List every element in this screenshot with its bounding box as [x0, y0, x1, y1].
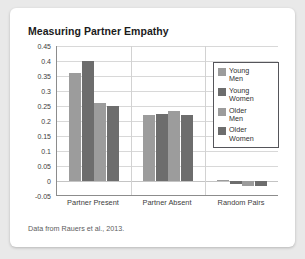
bar	[82, 61, 94, 181]
legend-label: OlderWomen	[229, 126, 254, 143]
legend-item: YoungMen	[218, 67, 274, 84]
legend-item: OlderWomen	[218, 126, 274, 143]
bar	[217, 180, 229, 182]
bar	[69, 73, 81, 181]
y-tick-label: 0.15	[37, 133, 51, 140]
y-tick-label: 0.2	[41, 118, 51, 125]
legend-swatch-icon	[218, 88, 226, 96]
y-tick-label: 0.05	[37, 163, 51, 170]
bar	[107, 106, 119, 181]
legend-label: YoungWomen	[229, 87, 254, 104]
legend-swatch-icon	[218, 68, 226, 76]
bar	[168, 111, 180, 182]
legend-label: YoungMen	[229, 67, 249, 84]
x-tick-label: Random Pairs	[218, 198, 265, 207]
y-tick-label: 0.45	[37, 43, 51, 50]
chart-legend: YoungMenYoungWomenOlderMenOlderWomen	[213, 62, 279, 148]
x-axis: Partner PresentPartner AbsentRandom Pair…	[56, 198, 278, 214]
bar	[156, 114, 168, 182]
x-tick-label: Partner Present	[67, 198, 119, 207]
legend-item: OlderMen	[218, 107, 274, 124]
legend-swatch-icon	[218, 108, 226, 116]
y-tick-label: 0.4	[41, 58, 51, 65]
bar	[94, 103, 106, 181]
legend-swatch-icon	[218, 127, 226, 135]
source-note: Data from Rauers et al., 2013.	[28, 224, 124, 233]
bar	[143, 115, 155, 181]
y-tick-label: 0.25	[37, 103, 51, 110]
legend-label: OlderMen	[229, 107, 247, 124]
bar	[255, 181, 267, 186]
x-tick-label: Partner Absent	[143, 198, 192, 207]
y-tick-label: 0.3	[41, 88, 51, 95]
y-tick-label: -0.05	[35, 193, 51, 200]
y-tick-label: 0	[47, 178, 51, 185]
chart-title: Measuring Partner Empathy	[28, 25, 169, 37]
y-tick-label: 0.1	[41, 148, 51, 155]
y-axis: 0.450.40.350.30.250.20.150.10.050-0.05	[24, 46, 54, 196]
y-tick-label: 0.35	[37, 73, 51, 80]
legend-item: YoungWomen	[218, 87, 274, 104]
bar	[242, 181, 254, 186]
chart-card: Measuring Partner Empathy 0.450.40.350.3…	[10, 8, 295, 247]
bar	[230, 181, 242, 184]
bar	[181, 115, 193, 181]
